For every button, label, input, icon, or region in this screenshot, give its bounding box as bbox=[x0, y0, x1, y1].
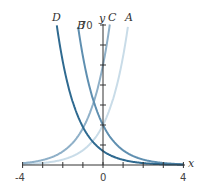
x-tick-max: 4 bbox=[180, 172, 186, 183]
curve-A bbox=[23, 27, 128, 165]
chart: x y 70 -4 0 4 A B C D bbox=[0, 0, 200, 194]
curve-D bbox=[57, 25, 184, 164]
curve-label-C: C bbox=[108, 11, 117, 24]
curve-C bbox=[23, 25, 110, 164]
x-tick-min: -4 bbox=[15, 172, 25, 183]
x-axis-label: x bbox=[188, 157, 195, 170]
curve-label-D: D bbox=[51, 11, 61, 24]
curve-label-B: B bbox=[76, 19, 85, 32]
curve-label-A: A bbox=[124, 11, 133, 24]
y-axis-label: y bbox=[98, 12, 106, 25]
x-tick-zero: 0 bbox=[100, 172, 106, 183]
